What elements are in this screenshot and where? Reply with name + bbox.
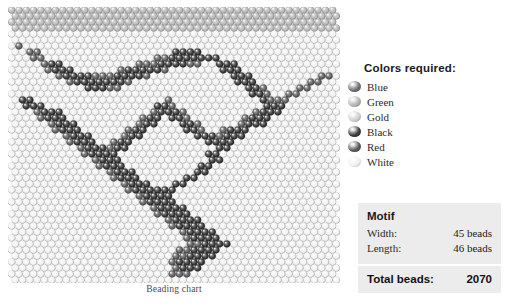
color-label: White: [367, 156, 394, 168]
color-swatch-black: [348, 126, 361, 137]
total-beads-label: Total beads:: [367, 273, 434, 285]
motif-title: Motif: [367, 210, 492, 222]
color-swatch-green: [348, 96, 361, 107]
color-label: Green: [367, 96, 394, 108]
color-row-black[interactable]: Black: [348, 124, 508, 139]
color-row-white[interactable]: White: [348, 154, 508, 169]
motif-length-row: Length: 46 beads: [367, 241, 492, 256]
color-label: Gold: [367, 111, 389, 123]
color-row-gold[interactable]: Gold: [348, 109, 508, 124]
motif-length-value: 46 beads: [453, 241, 492, 256]
total-beads-value: 2070: [466, 273, 492, 285]
motif-total-row: Total beads: 2070: [358, 266, 501, 293]
color-swatch-red: [348, 141, 361, 152]
color-swatch-gold: [348, 111, 361, 122]
beading-chart-app: Beading chart Colors required: BlueGreen…: [0, 0, 511, 308]
color-row-green[interactable]: Green: [348, 94, 508, 109]
motif-panel: Motif Width: 45 beads Length: 46 beads T…: [358, 203, 501, 293]
color-row-red[interactable]: Red: [348, 139, 508, 154]
motif-width-value: 45 beads: [453, 226, 492, 241]
color-swatch-white: [348, 156, 361, 167]
motif-length-label: Length:: [367, 241, 401, 256]
colors-list: BlueGreenGoldBlackRedWhite: [358, 79, 508, 169]
colors-required-panel: Colors required: BlueGreenGoldBlackRedWh…: [358, 62, 508, 169]
motif-width-label: Width:: [367, 226, 397, 241]
color-label: Black: [367, 126, 393, 138]
colors-required-title: Colors required:: [364, 62, 508, 74]
bead-grid-canvas[interactable]: [8, 7, 340, 283]
color-swatch-blue: [348, 81, 361, 92]
color-row-blue[interactable]: Blue: [348, 79, 508, 94]
chart-caption: Beading chart: [0, 284, 348, 294]
chart-area: Beading chart: [0, 0, 348, 308]
motif-width-row: Width: 45 beads: [367, 226, 492, 241]
color-label: Blue: [367, 81, 388, 93]
color-label: Red: [367, 141, 385, 153]
motif-details: Motif Width: 45 beads Length: 46 beads: [358, 203, 501, 264]
